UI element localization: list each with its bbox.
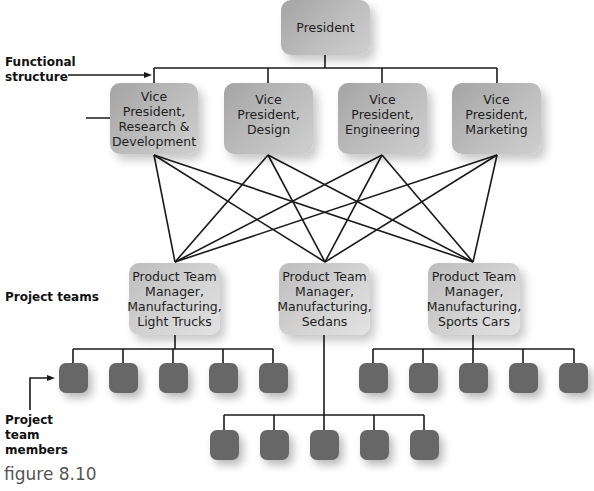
president-label: President [296,20,354,35]
team-member-box [559,363,588,393]
team-label: Product Team Manager, Manufacturing, Spo… [427,269,522,329]
vp-label: Vice President, Engineering [345,92,420,137]
team-member-box [509,363,538,393]
team-sedans-box: Product Team Manager, Manufacturing, Sed… [279,263,370,335]
team-member-box [310,430,339,460]
vp-engineering-box: Vice President, Engineering [338,83,427,154]
team-member-box [59,363,88,393]
team-member-box [259,363,288,393]
vp-marketing-box: Vice President, Marketing [452,83,541,154]
team-member-box [459,363,488,393]
team-sports-cars-box: Product Team Manager, Manufacturing, Spo… [428,263,520,335]
president-box: President [281,0,370,55]
connector-lines [0,0,594,491]
team-label: Product Team Manager, Manufacturing, Sed… [277,269,372,329]
team-member-box [409,363,438,393]
team-member-box [209,363,238,393]
project-teams-label: Project teams [5,290,99,305]
team-member-box [410,430,439,460]
team-member-box [159,363,188,393]
team-member-box [359,363,388,393]
team-member-box [260,430,289,460]
team-light-trucks-box: Product Team Manager, Manufacturing, Lig… [129,263,220,335]
team-label: Product Team Manager, Manufacturing, Lig… [127,269,222,329]
vp-label: Vice President, Marketing [465,92,527,137]
vp-design-box: Vice President, Design [224,83,313,154]
project-team-members-label: Project team members [5,413,68,458]
vp-label: Vice President, Research & Development [112,89,196,149]
team-member-box [360,430,389,460]
functional-structure-label: Functional structure [5,55,76,85]
vp-label: Vice President, Design [237,92,299,137]
team-member-box [210,430,239,460]
vp-research-development-box: Vice President, Research & Development [110,83,198,154]
team-member-box [109,363,138,393]
figure-caption: figure 8.10 [4,464,97,484]
